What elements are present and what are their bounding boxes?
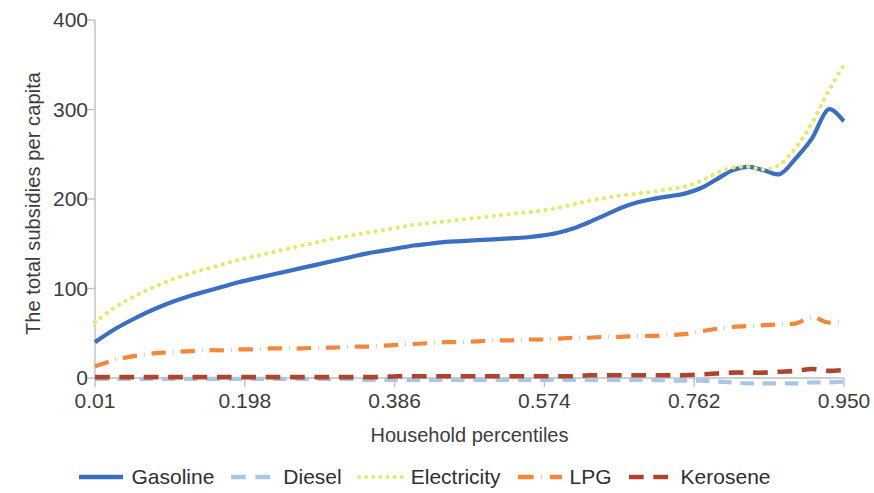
- x-tick-label: 0.386: [335, 390, 455, 411]
- y-tick-label: 400: [18, 9, 88, 30]
- legend-label: Gasoline: [131, 466, 214, 487]
- legend-item-electricity[interactable]: Electricity: [358, 466, 501, 487]
- legend-swatch-electricity-icon: [358, 470, 404, 484]
- x-axis-tick-labels: 0.010.1980.3860.5740.7620.950: [95, 0, 844, 493]
- y-tick-label: 300: [18, 99, 88, 120]
- legend-swatch-kerosene-icon: [628, 470, 674, 484]
- legend-label: LPG: [570, 466, 612, 487]
- legend-swatch-gasoline-icon: [78, 470, 124, 484]
- x-tick-label: 0.198: [185, 390, 305, 411]
- legend-label: Diesel: [283, 466, 341, 487]
- x-tick-label: 0.574: [484, 390, 604, 411]
- legend-label: Electricity: [411, 466, 501, 487]
- legend-item-lpg[interactable]: LPG: [517, 466, 612, 487]
- y-tick-label: 100: [18, 278, 88, 299]
- y-tick-label: 0: [18, 367, 88, 388]
- chart-legend: GasolineDieselElectricityLPGKerosene: [0, 466, 849, 487]
- legend-swatch-lpg-icon: [517, 470, 563, 484]
- legend-item-kerosene[interactable]: Kerosene: [628, 466, 771, 487]
- x-tick-label: 0.01: [35, 390, 155, 411]
- x-axis-title: Household percentiles: [95, 424, 844, 447]
- legend-swatch-diesel-icon: [230, 470, 276, 484]
- x-tick-label: 0.950: [784, 390, 874, 411]
- y-tick-label: 200: [18, 188, 88, 209]
- x-tick-label: 0.762: [634, 390, 754, 411]
- legend-label: Kerosene: [681, 466, 771, 487]
- legend-item-gasoline[interactable]: Gasoline: [78, 466, 214, 487]
- legend-item-diesel[interactable]: Diesel: [230, 466, 341, 487]
- y-axis-tick-labels: 0100200300400: [0, 0, 88, 493]
